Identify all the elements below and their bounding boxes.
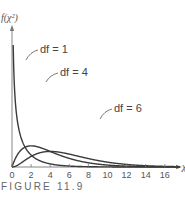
curve-df-4 <box>12 146 180 167</box>
legend-label-df-4: df = 4 <box>60 66 88 78</box>
y-axis-arrow-icon <box>10 25 14 31</box>
legend-label-df-6: df = 6 <box>114 102 142 114</box>
x-tick-label: 6 <box>67 170 72 180</box>
x-tick-label: 2 <box>29 170 34 180</box>
x-tick-label: 10 <box>102 170 112 180</box>
x-axis-label: χ² <box>181 161 185 172</box>
y-axis-label: f(χ²) <box>1 12 19 24</box>
legend-label-df-1: df = 1 <box>40 43 68 55</box>
figure-caption: FIGURE 11.9 <box>1 181 84 192</box>
leader-line-df-6 <box>100 109 112 119</box>
x-tick-label: 4 <box>48 170 53 180</box>
x-tick-label: 0 <box>9 170 14 180</box>
x-tick-label: 8 <box>86 170 91 180</box>
leader-line-df-1 <box>26 50 38 60</box>
curve-df-1 <box>13 45 180 167</box>
chi-square-chart: 0246810121416 f(χ²)χ²df = 1df = 4df = 6F… <box>0 0 185 202</box>
x-tick-label: 16 <box>160 170 170 180</box>
x-tick-label: 14 <box>141 170 151 180</box>
leader-line-df-4 <box>46 73 58 82</box>
x-tick-label: 12 <box>122 170 132 180</box>
